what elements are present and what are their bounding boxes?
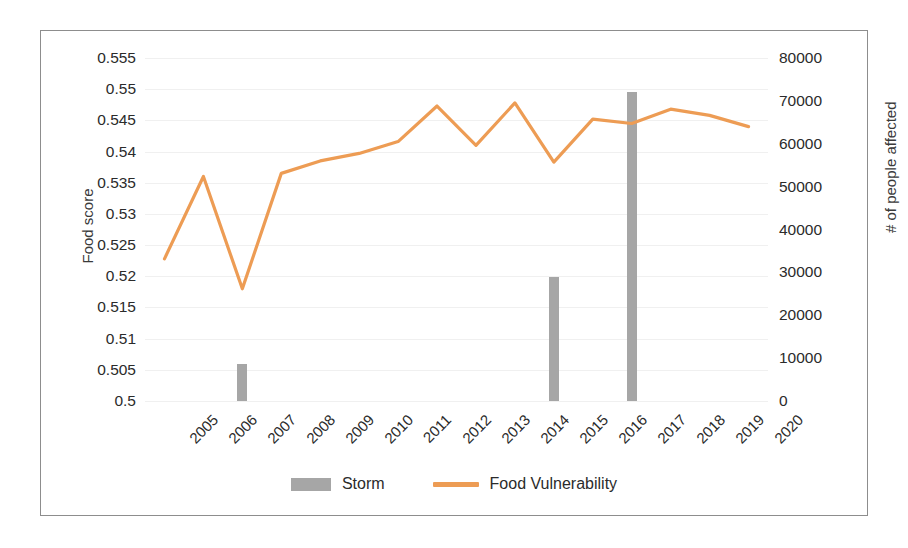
legend-item-storm[interactable]: Storm (291, 475, 385, 493)
y-axis-left-tick: 0.5 (114, 393, 136, 409)
x-axis-tick: 2016 (615, 411, 651, 447)
legend-label-food-vulnerability: Food Vulnerability (490, 475, 617, 493)
food-vulnerability-swatch-icon (433, 482, 479, 487)
chart-frame: Food score # of people affected 0.50.505… (40, 30, 868, 516)
x-axis-tick: 2018 (692, 411, 728, 447)
x-axis-tick: 2012 (459, 411, 495, 447)
y-axis-right-tick: 20000 (779, 307, 822, 323)
legend-label-storm: Storm (342, 475, 385, 493)
food-vulnerability-line[interactable] (164, 103, 748, 289)
x-axis-tick: 2008 (303, 411, 339, 447)
x-axis-tick: 2010 (381, 411, 417, 447)
storm-swatch-icon (291, 478, 331, 491)
x-axis-tick: 2007 (264, 411, 300, 447)
y-axis-left-tick: 0.515 (97, 299, 136, 315)
chart-legend: Storm Food Vulnerability (41, 475, 867, 493)
y-axis-left-tick: 0.55 (106, 81, 136, 97)
x-axis-tick: 2013 (498, 411, 534, 447)
y-axis-left-tick: 0.525 (97, 237, 136, 253)
x-axis-tick: 2014 (537, 411, 573, 447)
y-axis-right-tick: 60000 (779, 136, 822, 152)
plot-area: Food score # of people affected 0.50.505… (145, 58, 768, 401)
gridline (145, 401, 768, 402)
y-axis-right-tick: 40000 (779, 222, 822, 238)
y-axis-left-tick: 0.555 (97, 50, 136, 66)
plot-inner (145, 58, 768, 401)
y-axis-left-tick: 0.52 (106, 268, 136, 284)
x-axis-tick: 2011 (420, 411, 455, 446)
x-axis-tick: 2019 (731, 411, 767, 447)
x-axis-tick: 2017 (653, 411, 689, 447)
y-axis-left-tick: 0.51 (106, 331, 136, 347)
y-axis-right-tick: 80000 (779, 50, 822, 66)
x-axis-tick: 2015 (576, 411, 612, 447)
x-axis-tick: 2020 (770, 411, 806, 447)
y-axis-right-tick: 30000 (779, 264, 822, 280)
y-axis-right-tick: 50000 (779, 179, 822, 195)
y-axis-left-title: Food score (79, 188, 96, 263)
y-axis-right-tick: 70000 (779, 93, 822, 109)
legend-item-food-vulnerability[interactable]: Food Vulnerability (433, 475, 617, 493)
y-axis-left-tick: 0.535 (97, 175, 136, 191)
line-series-layer (145, 58, 768, 401)
y-axis-right-title: # of people affected (882, 102, 899, 234)
y-axis-left-tick: 0.53 (106, 206, 136, 222)
x-axis-tick: 2009 (342, 411, 378, 447)
y-axis-right-tick: 10000 (779, 350, 822, 366)
y-axis-left-tick: 0.505 (97, 362, 136, 378)
x-axis-tick: 2005 (186, 411, 222, 447)
x-axis-tick: 2006 (225, 411, 261, 447)
y-axis-right-tick: 0 (779, 393, 788, 409)
y-axis-left-tick: 0.54 (106, 144, 136, 160)
y-axis-left-tick: 0.545 (97, 112, 136, 128)
